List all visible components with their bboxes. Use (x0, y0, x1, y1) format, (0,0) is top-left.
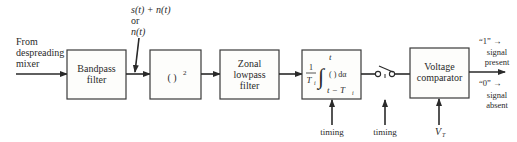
lowpass-label-line1: Zonal (238, 58, 262, 69)
input-label-line3: mixer (16, 58, 40, 69)
bandpass-label-line1: Bandpass (77, 63, 115, 74)
output-zero-desc-line2: absent (486, 100, 508, 110)
squarer-label: ( ) (167, 72, 176, 84)
sampling-switch (375, 66, 394, 78)
comparator-label-line1: Voltage (424, 61, 455, 72)
output-one-label: “1” → (479, 36, 501, 46)
squarer-exponent: 2 (183, 69, 187, 77)
signal-annotation-line3: n(t) (131, 26, 146, 38)
integrator-integrand: ( ) dα (329, 70, 347, 79)
comparator-label-line2: comparator (417, 72, 463, 83)
input-label-line2: despreading (16, 47, 64, 58)
output-zero-desc-line1: signal (487, 90, 508, 100)
signal-annotation-line2: or (131, 15, 140, 26)
radiometer-block-diagram: From despreading mixer Bandpass filter s… (0, 0, 517, 142)
output-one-desc-line2: present (485, 57, 510, 67)
threshold-label-sub: T (442, 132, 446, 138)
lowpass-label-line2: lowpass (233, 69, 265, 80)
integrator-timing-label: timing (320, 127, 344, 137)
annotation-pointer-arrow (135, 38, 139, 72)
switch-timing-label: timing (373, 127, 397, 137)
bandpass-label-line2: filter (87, 74, 107, 85)
integrator-lower-limit: t − T (327, 85, 346, 95)
input-label-line1: From (16, 36, 38, 47)
lowpass-label-line3: filter (240, 80, 260, 91)
output-one-desc-line1: signal (487, 47, 508, 57)
integrator-frac-num: 1 (309, 63, 313, 72)
output-zero-label: “0” → (479, 78, 501, 88)
